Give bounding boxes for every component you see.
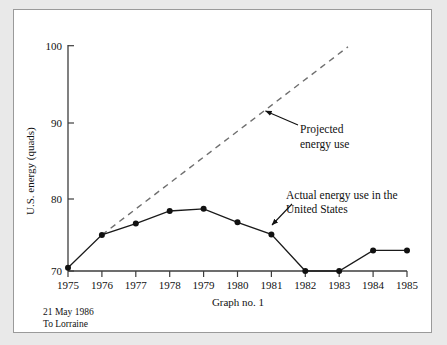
figure-panel: 100 90 80 70 U.S. energy (quads) 1975 19…	[13, 9, 432, 333]
x-tick-label-1984: 1984	[362, 279, 385, 291]
y-tick-label-90: 90	[51, 117, 63, 129]
data-point	[302, 268, 308, 274]
y-tick-label-100: 100	[46, 40, 63, 52]
chart-canvas: 100 90 80 70 U.S. energy (quads) 1975 19…	[14, 10, 433, 334]
series-actual-energy-use	[65, 206, 410, 274]
data-point	[167, 208, 173, 214]
data-point	[99, 232, 105, 238]
y-axis-tick-labels: 100 90 80 70	[46, 40, 63, 277]
x-axis-tick-labels: 1975 1976 1977 1978 1979 1980 1981 1982 …	[57, 279, 419, 291]
data-point	[404, 247, 410, 253]
projected-callout: Projected energy use	[266, 111, 350, 151]
x-tick-label-1985: 1985	[396, 279, 419, 291]
actual-callout-label-line1: Actual energy use in the	[286, 189, 398, 202]
actual-callout: Actual energy use in the United States	[272, 189, 398, 225]
actual-data-points	[65, 206, 410, 274]
y-axis-ticks	[68, 46, 74, 271]
footer-recipient: To Lorraine	[43, 319, 88, 329]
footer-note: 21 May 1986 To Lorraine	[43, 307, 94, 329]
y-tick-label-70: 70	[51, 265, 63, 277]
data-point	[65, 265, 71, 271]
x-tick-label-1982: 1982	[294, 279, 316, 291]
y-tick-label-80: 80	[51, 193, 63, 205]
projected-callout-label-line1: Projected	[300, 123, 344, 136]
graph-caption: Graph no. 1	[212, 296, 264, 308]
actual-line	[68, 209, 407, 271]
axes	[68, 45, 407, 271]
x-tick-label-1981: 1981	[260, 279, 282, 291]
data-point	[336, 268, 342, 274]
x-tick-label-1976: 1976	[91, 279, 114, 291]
x-tick-label-1980: 1980	[227, 279, 250, 291]
x-tick-label-1975: 1975	[57, 279, 80, 291]
y-axis-title: U.S. energy (quads)	[24, 127, 37, 215]
x-tick-label-1978: 1978	[159, 279, 182, 291]
data-point	[370, 247, 376, 253]
x-tick-label-1979: 1979	[193, 279, 216, 291]
projected-callout-label-line2: energy use	[300, 138, 349, 151]
data-point	[268, 231, 274, 237]
actual-callout-label-line2: United States	[286, 203, 348, 215]
x-tick-label-1983: 1983	[328, 279, 351, 291]
footer-date: 21 May 1986	[43, 307, 94, 317]
x-tick-label-1977: 1977	[125, 279, 148, 291]
data-point	[133, 221, 139, 227]
data-point	[201, 206, 207, 212]
projected-callout-leader	[266, 111, 299, 125]
x-axis-ticks	[68, 271, 407, 277]
data-point	[235, 219, 241, 225]
